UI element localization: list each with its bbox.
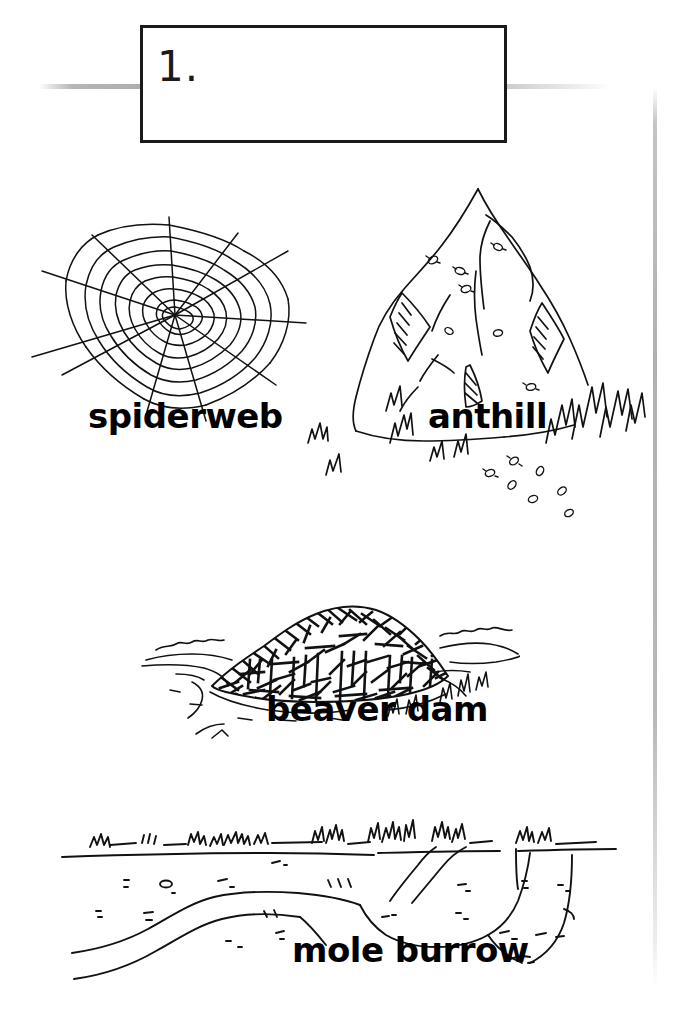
right-margin-vertical-rule — [653, 88, 657, 988]
worksheet-page: 1. — [0, 0, 675, 1009]
spiderweb-label: spiderweb — [88, 399, 283, 433]
question-number-box[interactable]: 1. — [140, 25, 507, 143]
mole-burrow-label: mole burrow — [292, 933, 529, 967]
question-number: 1. — [157, 46, 199, 88]
anthill-icon — [290, 175, 650, 525]
spiderweb-icon — [30, 215, 310, 425]
spiderweb-illustration — [30, 215, 310, 425]
anthill-label: anthill — [428, 399, 547, 433]
anthill-illustration — [290, 175, 650, 525]
beaver-dam-label: beaver dam — [266, 692, 488, 726]
